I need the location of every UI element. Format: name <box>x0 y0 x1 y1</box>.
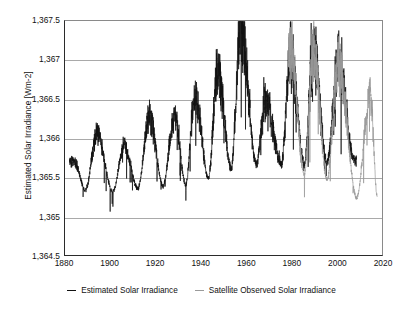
y-tick-label: 1,367 <box>39 54 60 64</box>
y-tick-label: 1,365 <box>39 212 60 222</box>
x-tick-label: 1920 <box>146 258 165 268</box>
x-tick-label: 2020 <box>374 258 393 268</box>
x-tick-label: 2000 <box>328 258 347 268</box>
y-tick-label: 1,366.5 <box>32 94 60 104</box>
y-tick-label: 1,367.5 <box>32 15 60 25</box>
legend-label-satellite: Satellite Observed Solar Irradiance <box>209 286 336 295</box>
y-axis-title: Estimated Solar Irradiance [Wm-2] <box>24 26 33 246</box>
x-tick-label: 1900 <box>100 258 119 268</box>
legend-swatch-icon-satellite <box>195 290 204 292</box>
y-tick-label: 1,366 <box>39 133 60 143</box>
x-tick-label: 1980 <box>283 258 302 268</box>
x-tick-label: 1880 <box>55 258 74 268</box>
chart-legend: Estimated Solar Irradiance Satellite Obs… <box>0 286 403 295</box>
data-series-layer <box>65 21 383 256</box>
x-tick-label: 1940 <box>191 258 210 268</box>
solar-irradiance-chart: Estimated Solar Irradiance [Wm-2] 1,367.… <box>0 0 403 315</box>
plot-area <box>64 20 383 256</box>
legend-item-estimated: Estimated Solar Irradiance <box>67 286 177 295</box>
legend-swatch-icon-estimated <box>67 290 76 292</box>
y-tick-label: 1,365.5 <box>32 172 60 182</box>
x-tick-label: 1960 <box>237 258 256 268</box>
legend-item-satellite: Satellite Observed Solar Irradiance <box>195 286 336 295</box>
legend-label-estimated: Estimated Solar Irradiance <box>81 286 177 295</box>
